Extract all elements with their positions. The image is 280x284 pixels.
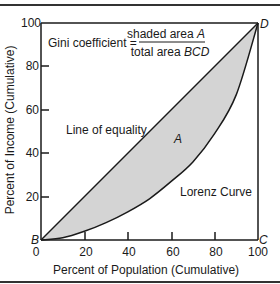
x-tick-label: 100 xyxy=(248,245,268,259)
y-tick-label: 40 xyxy=(26,146,40,160)
formula-lhs: Gini coefficient = xyxy=(48,36,137,50)
gini-chart: 20 40 60 80 100 0 20 40 60 80 100 Percen… xyxy=(0,0,280,284)
y-ticks: 20 40 60 80 100 xyxy=(21,16,49,204)
x-tick-label: 0 xyxy=(33,245,40,259)
gini-formula: Gini coefficient = shaded area A total a… xyxy=(48,27,210,59)
formula-numerator: shaded area A xyxy=(127,27,205,41)
y-tick-label: 60 xyxy=(26,103,40,117)
formula-denominator: total area BCD xyxy=(131,45,210,59)
y-tick-label: 80 xyxy=(26,59,40,73)
x-tick-label: 80 xyxy=(209,245,223,259)
x-tick-label: 20 xyxy=(79,245,93,259)
corner-label-b: B xyxy=(31,233,39,247)
x-tick-label: 60 xyxy=(166,245,180,259)
y-tick-label: 100 xyxy=(21,16,41,30)
lorenz-curve-label: Lorenz Curve xyxy=(180,185,252,199)
line-of-equality-label: Line of equality xyxy=(66,123,147,137)
y-axis-title: Percent of Income (Cumulative) xyxy=(3,46,17,215)
area-a-label: A xyxy=(173,132,182,146)
y-tick-label: 20 xyxy=(26,190,40,204)
x-tick-label: 40 xyxy=(122,245,136,259)
corner-label-d: D xyxy=(260,17,269,31)
x-axis-title: Percent of Population (Cumulative) xyxy=(53,263,239,277)
corner-label-c: C xyxy=(259,233,268,247)
